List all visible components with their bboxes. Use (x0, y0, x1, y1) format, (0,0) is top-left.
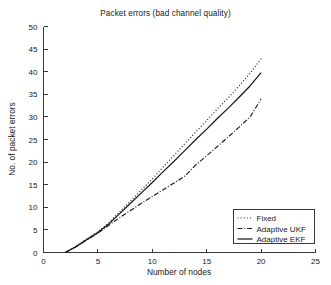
y-tick-label: 30 (29, 113, 38, 122)
x-tick-label: 10 (148, 257, 157, 266)
y-tick-label: 20 (29, 158, 38, 167)
x-tick-label: 0 (41, 257, 46, 266)
y-tick-label: 45 (29, 45, 38, 54)
y-tick-label: 0 (33, 249, 38, 258)
y-tick-label: 5 (33, 226, 38, 235)
chart-legend[interactable]: FixedAdaptive UKFAdaptive EKF (234, 210, 315, 245)
series-line-fixed (65, 59, 261, 253)
y-tick-label: 50 (29, 23, 38, 32)
series-line-adaptive-ekf (65, 73, 261, 253)
x-tick-label: 25 (311, 257, 320, 266)
x-tick-label: 15 (202, 257, 211, 266)
x-axis-title: Number of nodes (147, 267, 211, 277)
y-tick-label: 10 (29, 203, 38, 212)
line-chart: 05101520253035404550 0510152025 Number o… (0, 0, 331, 285)
legend-label-adaptive-ekf: Adaptive EKF (257, 235, 306, 244)
y-tick-label: 25 (29, 136, 38, 145)
x-tick-label: 5 (96, 257, 101, 266)
y-tick-label: 35 (29, 90, 38, 99)
y-axis-ticks: 05101520253035404550 (29, 23, 48, 258)
series-group (65, 59, 261, 253)
series-line-adaptive-ukf (65, 99, 261, 253)
legend-label-fixed: Fixed (257, 214, 277, 223)
y-tick-label: 15 (29, 181, 38, 190)
x-tick-label: 20 (257, 257, 266, 266)
y-axis-title: No. of packet errors (7, 102, 17, 176)
x-axis-ticks: 0510152025 (41, 249, 320, 266)
legend-label-adaptive-ukf: Adaptive UKF (257, 225, 306, 234)
y-tick-label: 40 (29, 68, 38, 77)
figure-canvas: Packet errors (bad channel quality) 0510… (0, 0, 331, 285)
